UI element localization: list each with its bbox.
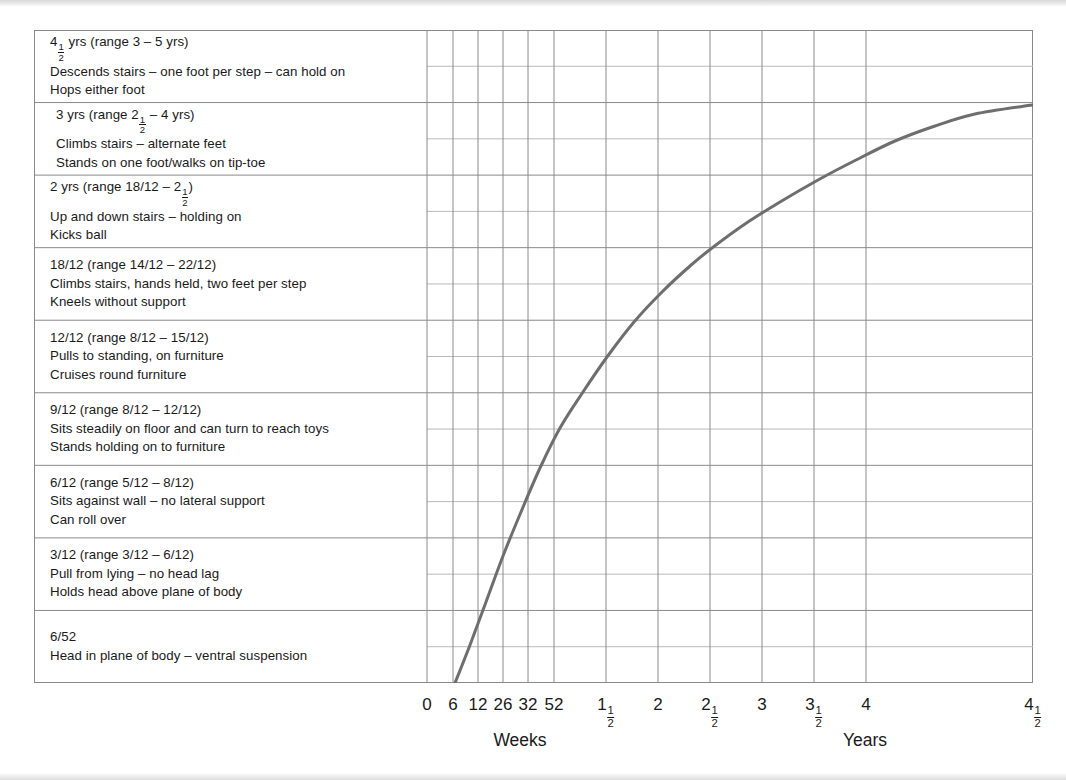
x-axis-tick-0: 0 — [422, 695, 431, 715]
fraction: 12 — [711, 705, 718, 729]
x-axis-tick-26: 26 — [494, 695, 513, 715]
developmental-milestones-chart: 412 yrs (range 3 – 5 yrs)Descends stairs… — [0, 0, 1066, 780]
x-axis-tick-3: 3 — [757, 695, 766, 715]
x-axis-tick-4-1-2: 412 — [1024, 695, 1042, 729]
x-axis-title-years: Years — [843, 730, 887, 751]
x-axis-tick-2-1-2: 212 — [701, 695, 719, 729]
x-axis: 0612263252112221233124412WeeksYears — [0, 0, 1066, 780]
fraction: 12 — [607, 705, 614, 729]
x-axis-tick-2: 2 — [653, 695, 662, 715]
x-axis-tick-1-1-2: 112 — [597, 695, 615, 729]
x-axis-tick-6: 6 — [448, 695, 457, 715]
x-axis-tick-4: 4 — [861, 695, 870, 715]
x-axis-tick-52: 52 — [545, 695, 564, 715]
fraction: 12 — [1034, 705, 1041, 729]
x-axis-title-weeks: Weeks — [493, 730, 546, 751]
x-axis-tick-32: 32 — [519, 695, 538, 715]
fraction: 12 — [815, 705, 822, 729]
x-axis-tick-3-1-2: 312 — [805, 695, 823, 729]
x-axis-tick-12: 12 — [469, 695, 488, 715]
